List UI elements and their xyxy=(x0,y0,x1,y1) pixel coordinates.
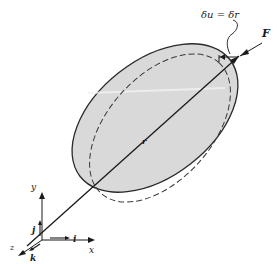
diagram-canvas: δu = δr F r y x z i j k xyxy=(0,0,277,264)
z-axis-arrowhead xyxy=(18,250,26,256)
y-axis-arrowhead xyxy=(39,192,45,199)
x-axis-label: x xyxy=(89,245,94,255)
unit-vector-j-label: j xyxy=(30,225,36,235)
solid-body-ellipse xyxy=(44,14,265,222)
unit-vector-i-label: i xyxy=(73,234,77,244)
displacement-label: δu = δr xyxy=(201,9,240,20)
unit-vector-j-arrowhead xyxy=(38,220,42,225)
y-axis-label: y xyxy=(30,182,37,192)
unit-vector-i-arrowhead xyxy=(65,236,70,240)
displacement-leader xyxy=(227,20,237,54)
z-axis-label: z xyxy=(9,243,15,252)
force-label: F xyxy=(261,27,271,40)
force-arrowhead xyxy=(240,49,249,56)
x-axis-arrowhead xyxy=(88,237,95,243)
unit-vector-k-label: k xyxy=(30,253,36,263)
